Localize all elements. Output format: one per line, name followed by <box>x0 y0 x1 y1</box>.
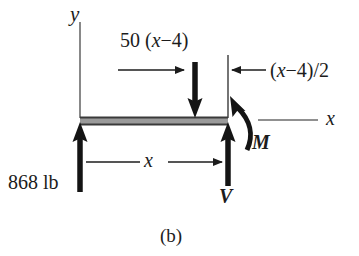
reaction-force-arrow <box>73 122 88 192</box>
shear-force-arrow <box>221 122 236 186</box>
distributed-load-resultant-arrow <box>188 62 203 118</box>
halfdist-open-paren: ( <box>270 59 277 81</box>
y-axis-label: y <box>70 4 79 25</box>
figure-caption: (b) <box>160 226 182 245</box>
reaction-force-label: 868 lb <box>8 172 59 192</box>
moment-curved-arrow <box>230 96 250 150</box>
load-coefficient: 50 ( <box>120 29 152 51</box>
half-distance-label: (x−4)/2 <box>270 60 329 80</box>
load-variable: x <box>152 29 161 51</box>
distributed-load-label: 50 (x−4) <box>120 30 189 50</box>
shear-label: V <box>219 186 232 206</box>
halfdist-variable: x <box>277 59 286 81</box>
halfdist-tail: −4)/2 <box>286 59 330 81</box>
span-dimension-label: x <box>144 150 153 170</box>
load-expression-tail: −4) <box>161 29 189 51</box>
x-axis-label: x <box>326 108 335 128</box>
moment-label: M <box>252 132 270 152</box>
free-body-diagram-figure: y x 50 (x−4) (x−4)/2 x M V 868 lb (b) <box>0 0 359 256</box>
